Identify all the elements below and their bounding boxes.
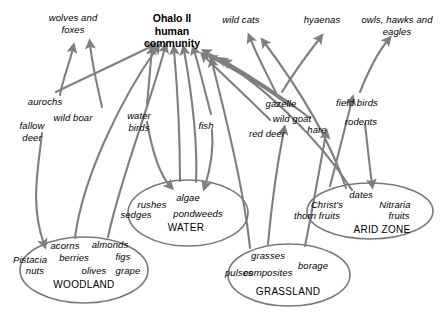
diagram-connections [0, 0, 447, 320]
animal-label-line: fish [198, 120, 213, 132]
animal-label-wild-boar[interactable]: wild boar [54, 112, 93, 124]
animal-label-line: fallow [20, 120, 45, 132]
zone-item-woodland-3[interactable]: figs [115, 251, 130, 263]
animal-label-line: water [127, 110, 151, 122]
animal-label-water-birds[interactable]: waterbirds [127, 110, 151, 133]
animal-label-line: hare [307, 124, 326, 136]
zone-name-grassland[interactable]: GRASSLAND [256, 286, 320, 297]
page-title: Ohalo IIhumancommunity [144, 12, 200, 50]
predator-label-line: wolves and [49, 12, 98, 24]
animal-label-hare[interactable]: hare [307, 124, 326, 136]
link-fish-to-water [205, 130, 213, 186]
zone-item-arid-zone-3[interactable]: Nitraria [379, 199, 410, 211]
zone-item-woodland-2[interactable]: berries [59, 252, 89, 264]
animal-label-line: birds [127, 122, 151, 134]
link-aurochs-to-human-community [56, 46, 152, 92]
link-fallow-deer-to-woodland [36, 133, 44, 244]
animal-label-line: aurochs [28, 96, 63, 108]
predator-label-wild-cats[interactable]: wild cats [222, 14, 259, 26]
zone-item-arid-zone-0[interactable]: dates [349, 189, 373, 201]
animal-label-line: deer [20, 132, 45, 144]
animal-label-aurochs[interactable]: aurochs [28, 96, 63, 108]
zone-name-arid-zone[interactable]: ARID ZONE [353, 224, 410, 235]
animal-label-line: wild boar [54, 112, 93, 124]
link-gazelle-to-hyaenas [282, 38, 320, 92]
zone-item-woodland-6[interactable]: olives [82, 265, 107, 277]
animal-label-fish[interactable]: fish [198, 120, 213, 132]
zone-item-woodland-4[interactable]: Pistacia [13, 254, 47, 266]
predator-label-line: foxes [49, 24, 98, 36]
zone-item-woodland-1[interactable]: almonds [92, 239, 129, 251]
predator-label-line: hyaenas [304, 14, 341, 26]
page-title-line: Ohalo II [144, 12, 200, 25]
animal-label-line: gazelle [266, 98, 297, 110]
zone-item-woodland-7[interactable]: grape [116, 265, 141, 277]
animal-label-line: red deer [249, 128, 285, 140]
link-grassland-to-red-deer-link [268, 130, 284, 244]
predator-label-hyaenas[interactable]: hyaenas [304, 14, 341, 26]
zone-name-water[interactable]: WATER [168, 222, 205, 233]
predator-label-wolves-and-foxes[interactable]: wolves andfoxes [49, 12, 98, 35]
animal-label-red-deer[interactable]: red deer [249, 128, 285, 140]
zone-item-woodland-5[interactable]: nuts [26, 265, 44, 277]
animal-label-wild-goat[interactable]: wild goat [273, 113, 311, 125]
predator-label-line: eagles [361, 26, 432, 38]
page-title-line: human [144, 25, 200, 38]
animal-label-fallow-deer[interactable]: fallowdeer [20, 120, 45, 143]
zone-item-water-1[interactable]: algae [176, 192, 200, 204]
link-field-birds-to-owls-hawks-and-eagles [360, 40, 388, 92]
zone-item-grassland-0[interactable]: grasses [251, 250, 285, 262]
zone-item-water-2[interactable]: sedges [120, 209, 151, 221]
zone-item-grassland-2[interactable]: composites [243, 267, 292, 279]
animal-label-field-birds[interactable]: field birds [336, 97, 378, 109]
animal-label-line: wild goat [273, 113, 311, 125]
food-web-diagram: Ohalo IIhumancommunity wolves andfoxeswi… [0, 0, 447, 320]
zone-item-arid-zone-2[interactable]: thorn fruits [294, 210, 340, 222]
zone-item-arid-zone-1[interactable]: Christ's [311, 199, 343, 211]
animal-label-rodents[interactable]: rodents [345, 116, 377, 128]
link-water2-to-human-community [184, 50, 196, 182]
zone-item-water-3[interactable]: pondweeds [173, 208, 223, 220]
animal-label-gazelle[interactable]: gazelle [266, 98, 297, 110]
predator-label-line: owls, hawks and [361, 14, 432, 26]
zone-item-woodland-0[interactable]: acorns [50, 240, 79, 252]
page-title-line: community [144, 37, 200, 50]
zone-item-grassland-3[interactable]: borage [298, 260, 328, 272]
predator-label-owls-hawks-and-eagles[interactable]: owls, hawks andeagles [361, 14, 432, 37]
predator-label-line: wild cats [222, 14, 259, 26]
link-water-to-human-community [174, 50, 180, 181]
link-grassland-to-human-community [212, 62, 250, 248]
zone-item-arid-zone-4[interactable]: fruits [388, 210, 409, 222]
animal-label-line: rodents [345, 116, 377, 128]
link-rodents-to-arid-zone [365, 124, 372, 184]
animal-label-line: field birds [336, 97, 378, 109]
zone-name-woodland[interactable]: WOODLAND [53, 279, 114, 290]
